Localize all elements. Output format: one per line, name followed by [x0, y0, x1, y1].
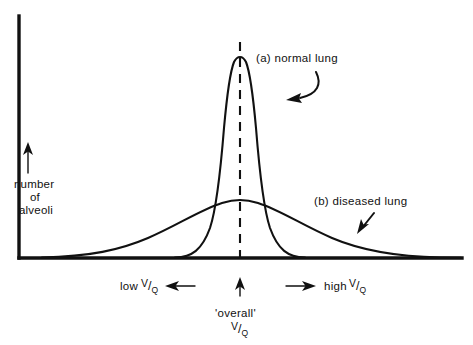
high-vq-numerator: V	[349, 277, 356, 289]
low-vq-denominator: Q	[152, 285, 159, 295]
vq-distribution-figure: number of alveoli (a) normal lung (b) di…	[0, 0, 473, 345]
overall-vq-symbol: V/Q	[231, 320, 249, 338]
figure-canvas: number of alveoli (a) normal lung (b) di…	[0, 0, 473, 345]
left-arrow-icon	[165, 281, 195, 291]
right-arrow-icon	[286, 281, 316, 291]
overall-vq-up-arrow-icon	[235, 277, 245, 296]
diseased-lung-curve	[42, 200, 461, 258]
low-vq-label-text: low	[120, 280, 139, 292]
overall-vq-label-text: 'overall'	[215, 307, 256, 319]
y-axis-label-line-3: alveoli	[19, 204, 53, 216]
normal-lung-label: (a) normal lung	[256, 52, 338, 64]
up-arrow-icon	[23, 142, 33, 173]
high-vq-label-text: high	[324, 280, 347, 292]
normal-lung-pointer-arrow-icon	[286, 72, 319, 103]
y-axis-label-line-2: of	[30, 191, 41, 203]
y-axis-label-line-1: number	[14, 178, 54, 190]
diseased-lung-label: (b) diseased lung	[314, 195, 407, 207]
low-vq-symbol: V/Q	[141, 277, 159, 295]
high-vq-symbol: V/Q	[349, 277, 367, 295]
diseased-lung-pointer-arrow-icon	[357, 213, 374, 234]
high-vq-denominator: Q	[360, 285, 367, 295]
overall-vq-numerator: V	[231, 320, 238, 332]
overall-vq-denominator: Q	[242, 328, 249, 338]
low-vq-numerator: V	[141, 277, 148, 289]
